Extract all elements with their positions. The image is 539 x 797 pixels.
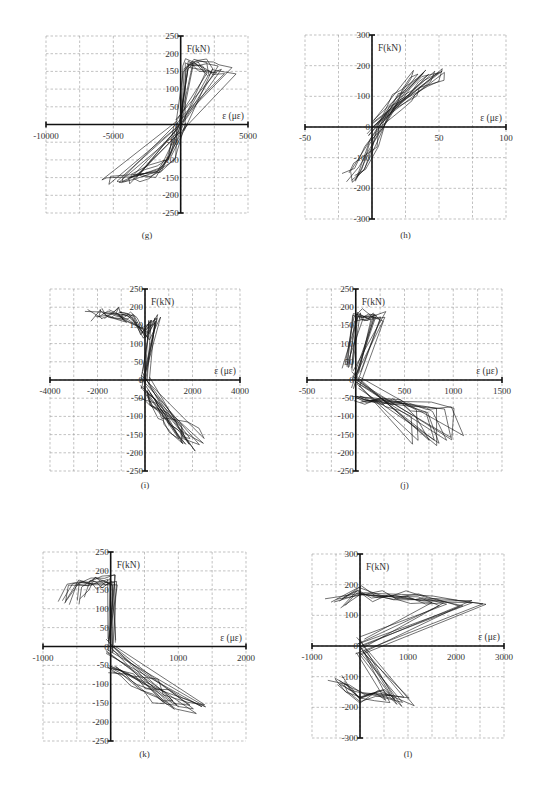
panel-caption: (h) bbox=[400, 230, 411, 240]
x-tick-label: -5000 bbox=[103, 131, 124, 141]
x-axis-label: ε (με) bbox=[478, 632, 500, 643]
hysteresis-curves bbox=[342, 309, 463, 446]
y-axis-label: F(kN) bbox=[362, 297, 385, 308]
x-tick-label: 3000 bbox=[495, 652, 514, 662]
y-tick-label: 250 bbox=[130, 284, 144, 294]
y-tick-label: -200 bbox=[162, 190, 179, 200]
panel-caption: (g) bbox=[142, 230, 153, 240]
y-tick-label: 0 bbox=[366, 122, 371, 132]
y-tick-label: -200 bbox=[342, 702, 359, 712]
y-tick-label: 100 bbox=[340, 339, 354, 349]
y-tick-label: -300 bbox=[342, 733, 359, 743]
chart-panel-j: 250200150100500-50-100-150-200-250-50050… bbox=[299, 284, 512, 490]
y-tick-label: 50 bbox=[345, 357, 355, 367]
chart-panel-i: 250200150100500-50-100-150-200-250-4000-… bbox=[40, 284, 250, 490]
y-axis-label: F(kN) bbox=[366, 562, 389, 573]
y-tick-label: -100 bbox=[127, 411, 144, 421]
y-tick-label: 250 bbox=[165, 31, 179, 41]
x-tick-label: 100 bbox=[499, 133, 513, 143]
x-tick-label: -10000 bbox=[33, 131, 59, 141]
chart-panel-g: 250200150100500-50-100-150-200-250-10000… bbox=[33, 31, 257, 240]
x-axis-label: ε (με) bbox=[476, 366, 498, 377]
y-tick-label: 0 bbox=[349, 375, 354, 385]
y-tick-label: -150 bbox=[92, 698, 109, 708]
y-tick-label: 200 bbox=[130, 302, 144, 312]
figure-canvas: 250200150100500-50-100-150-200-250-10000… bbox=[0, 0, 539, 797]
hysteresis-curves bbox=[102, 59, 236, 185]
x-axis-label: ε (με) bbox=[214, 366, 236, 377]
y-tick-label: 0 bbox=[104, 642, 109, 652]
y-axis-label: F(kN) bbox=[187, 44, 210, 55]
y-tick-label: -200 bbox=[92, 717, 109, 727]
y-axis-label: F(kN) bbox=[117, 560, 140, 571]
y-tick-label: 0 bbox=[139, 375, 144, 385]
y-tick-label: -300 bbox=[354, 214, 371, 224]
y-tick-label: 50 bbox=[170, 102, 180, 112]
y-tick-label: 100 bbox=[345, 610, 359, 620]
y-tick-label: 200 bbox=[95, 566, 109, 576]
y-tick-label: -250 bbox=[162, 208, 179, 218]
y-tick-label: 300 bbox=[357, 30, 371, 40]
y-tick-label: 100 bbox=[130, 339, 144, 349]
y-tick-label: 200 bbox=[345, 580, 359, 590]
x-tick-label: 500 bbox=[398, 386, 412, 396]
y-tick-label: -100 bbox=[162, 155, 179, 165]
x-tick-label: 1000 bbox=[444, 386, 463, 396]
x-axis-label: ε (με) bbox=[220, 633, 242, 644]
y-tick-label: -150 bbox=[337, 430, 354, 440]
y-tick-label: 150 bbox=[340, 320, 354, 330]
y-tick-label: 150 bbox=[95, 585, 109, 595]
y-tick-label: -250 bbox=[92, 736, 109, 746]
y-tick-label: -250 bbox=[337, 466, 354, 476]
x-axis-label: ε (με) bbox=[480, 113, 502, 124]
y-tick-label: 50 bbox=[134, 357, 144, 367]
y-tick-label: 50 bbox=[100, 623, 110, 633]
x-tick-label: -4000 bbox=[40, 386, 61, 396]
y-tick-label: -200 bbox=[127, 448, 144, 458]
panel-caption: (j) bbox=[400, 480, 409, 490]
x-tick-label: 2000 bbox=[184, 386, 203, 396]
x-tick-label: -1000 bbox=[302, 652, 323, 662]
panel-caption: (l) bbox=[404, 749, 413, 759]
y-tick-label: 250 bbox=[340, 284, 354, 294]
y-axis-label: F(kN) bbox=[378, 43, 401, 54]
x-tick-label: 1500 bbox=[493, 386, 512, 396]
y-tick-label: -150 bbox=[162, 173, 179, 183]
x-tick-label: 5000 bbox=[239, 131, 258, 141]
panel-caption: (k) bbox=[139, 749, 150, 759]
x-tick-label: 1000 bbox=[399, 652, 418, 662]
y-tick-label: 100 bbox=[357, 91, 371, 101]
y-tick-label: 200 bbox=[357, 61, 371, 71]
x-tick-label: 2000 bbox=[447, 652, 466, 662]
x-tick-label: -1000 bbox=[33, 653, 54, 663]
panel-caption: (i) bbox=[141, 480, 150, 490]
x-tick-label: 50 bbox=[435, 133, 445, 143]
y-tick-label: -100 bbox=[92, 679, 109, 689]
chart-panel-h: 3002001000-100-200-300-5050100F(kN)ε (με… bbox=[299, 30, 513, 240]
chart-panel-k: 250200150100500-50-100-150-200-250-10001… bbox=[33, 547, 256, 759]
y-tick-label: -200 bbox=[354, 183, 371, 193]
x-tick-label: -2000 bbox=[87, 386, 108, 396]
y-tick-label: -100 bbox=[337, 411, 354, 421]
y-tick-label: 0 bbox=[354, 641, 359, 651]
y-tick-label: 300 bbox=[345, 549, 359, 559]
x-tick-label: -500 bbox=[299, 386, 316, 396]
x-tick-label: 1000 bbox=[169, 653, 188, 663]
x-tick-label: 4000 bbox=[231, 386, 250, 396]
y-tick-label: -50 bbox=[131, 393, 143, 403]
y-tick-label: -250 bbox=[127, 466, 144, 476]
y-tick-label: 200 bbox=[165, 49, 179, 59]
y-tick-label: 100 bbox=[95, 604, 109, 614]
y-tick-label: -50 bbox=[167, 137, 179, 147]
y-axis-label: F(kN) bbox=[151, 297, 174, 308]
y-tick-label: 100 bbox=[165, 84, 179, 94]
hysteresis-curves bbox=[58, 575, 205, 714]
y-tick-label: -150 bbox=[127, 430, 144, 440]
y-tick-label: -100 bbox=[342, 672, 359, 682]
chart-panel-l: 3002001000-100-200-300-1000100020003000F… bbox=[302, 549, 514, 759]
x-axis-label: ε (με) bbox=[222, 111, 244, 122]
x-tick-label: -50 bbox=[299, 133, 311, 143]
y-tick-label: 0 bbox=[174, 120, 179, 130]
y-tick-label: -100 bbox=[354, 153, 371, 163]
x-tick-label: 2000 bbox=[237, 653, 256, 663]
